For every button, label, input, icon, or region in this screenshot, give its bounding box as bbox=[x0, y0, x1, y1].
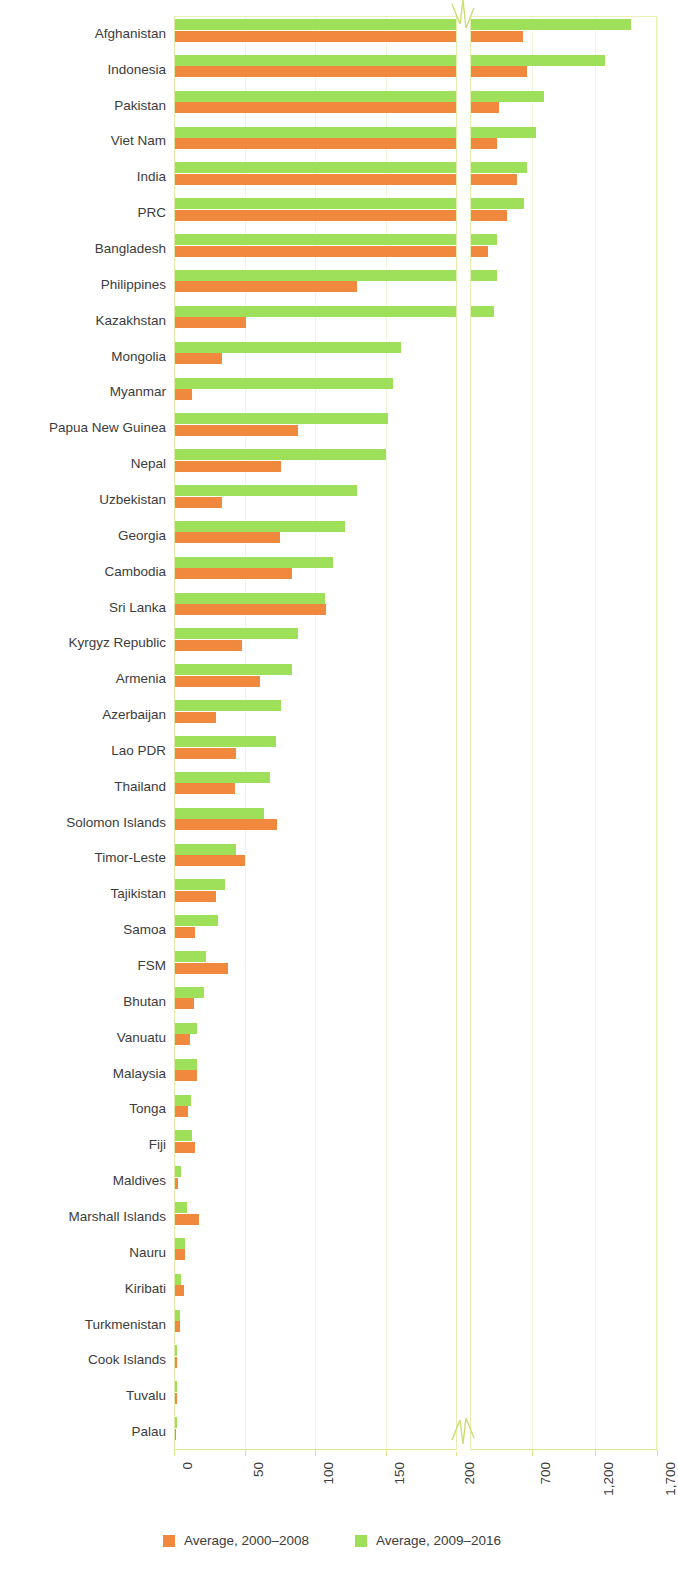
bar-orange bbox=[174, 389, 192, 400]
axis-break-edge-right bbox=[470, 16, 471, 1450]
category-label-papua-new-guinea: Papua New Guinea bbox=[0, 421, 166, 435]
bar-row bbox=[174, 52, 657, 88]
category-label-sri-lanka: Sri Lanka bbox=[0, 601, 166, 615]
category-label-tajikistan: Tajikistan bbox=[0, 887, 166, 901]
category-label-kiribati: Kiribati bbox=[0, 1282, 166, 1296]
axis-break-band bbox=[456, 0, 470, 1452]
bar-orange bbox=[174, 246, 456, 257]
tick-mark bbox=[315, 1450, 316, 1456]
bar-row bbox=[174, 1127, 657, 1163]
bar-row bbox=[174, 446, 657, 482]
bar-row bbox=[174, 1056, 657, 1092]
bar-row bbox=[174, 1020, 657, 1056]
bar-row bbox=[174, 1378, 657, 1414]
bar-green bbox=[174, 198, 456, 209]
bar-orange bbox=[174, 174, 456, 185]
bar-row bbox=[174, 267, 657, 303]
bar-green bbox=[174, 521, 345, 532]
category-label-afghanistan: Afghanistan bbox=[0, 27, 166, 41]
bar-row bbox=[174, 1342, 657, 1378]
category-label-marshall-islands: Marshall Islands bbox=[0, 1210, 166, 1224]
bar-green bbox=[174, 306, 456, 317]
bar-row bbox=[174, 805, 657, 841]
x-tick-label-200: 200 bbox=[462, 1462, 477, 1485]
bar-green bbox=[174, 1059, 197, 1070]
category-label-kyrgyz-republic: Kyrgyz Republic bbox=[0, 636, 166, 650]
bar-green bbox=[174, 844, 236, 855]
category-label-tonga: Tonga bbox=[0, 1102, 166, 1116]
bar-orange bbox=[174, 1070, 197, 1081]
bar-row bbox=[174, 554, 657, 590]
bar-orange bbox=[174, 1142, 195, 1153]
bar-row bbox=[174, 984, 657, 1020]
bar-orange bbox=[174, 748, 236, 759]
bar-row bbox=[174, 375, 657, 411]
bar-green bbox=[174, 593, 325, 604]
category-label-india: India bbox=[0, 170, 166, 184]
axis-break-edge-left bbox=[456, 16, 457, 1450]
tick-mark bbox=[595, 1450, 596, 1456]
bar-orange bbox=[174, 461, 281, 472]
legend-swatch-orange bbox=[163, 1535, 175, 1547]
category-axis-labels: AfghanistanIndonesiaPakistanViet NamIndi… bbox=[0, 16, 166, 1450]
bar-green bbox=[174, 234, 456, 245]
tick-mark bbox=[245, 1450, 246, 1456]
bar-green bbox=[174, 378, 393, 389]
category-label-maldives: Maldives bbox=[0, 1174, 166, 1188]
axis-break-marker-bottom bbox=[450, 1416, 476, 1450]
bar-green-continued bbox=[470, 234, 497, 245]
bar-orange bbox=[174, 353, 222, 364]
category-label-georgia: Georgia bbox=[0, 529, 166, 543]
bar-row bbox=[174, 912, 657, 948]
bar-green bbox=[174, 1166, 181, 1177]
bar-row bbox=[174, 1163, 657, 1199]
category-label-palau: Palau bbox=[0, 1425, 166, 1439]
category-label-fsm: FSM bbox=[0, 959, 166, 973]
bar-green bbox=[174, 808, 264, 819]
bar-rows bbox=[174, 16, 657, 1450]
category-label-viet-nam: Viet Nam bbox=[0, 134, 166, 148]
category-label-myanmar: Myanmar bbox=[0, 385, 166, 399]
bar-green-continued bbox=[470, 127, 536, 138]
x-tick-label-0: 0 bbox=[180, 1462, 195, 1470]
bar-green bbox=[174, 449, 386, 460]
bar-orange bbox=[174, 891, 216, 902]
bar-green bbox=[174, 1130, 192, 1141]
bar-row bbox=[174, 159, 657, 195]
category-label-bhutan: Bhutan bbox=[0, 995, 166, 1009]
bar-green bbox=[174, 485, 357, 496]
bar-orange-continued bbox=[470, 102, 499, 113]
chart-legend: Average, 2000–2008 Average, 2009–2016 bbox=[0, 1533, 664, 1548]
bar-green bbox=[174, 342, 401, 353]
bar-orange bbox=[174, 998, 194, 1009]
tick-mark bbox=[386, 1450, 387, 1456]
category-label-fiji: Fiji bbox=[0, 1138, 166, 1152]
bar-orange-continued bbox=[470, 31, 523, 42]
bar-green bbox=[174, 700, 281, 711]
bar-row bbox=[174, 303, 657, 339]
plot-area bbox=[174, 16, 657, 1450]
bar-orange bbox=[174, 927, 195, 938]
bar-green bbox=[174, 55, 456, 66]
bar-green-continued bbox=[470, 198, 524, 209]
category-label-nepal: Nepal bbox=[0, 457, 166, 471]
bar-row bbox=[174, 124, 657, 160]
bar-orange bbox=[174, 855, 245, 866]
x-tick-label-1200: 1,200 bbox=[601, 1462, 616, 1496]
bar-orange bbox=[174, 66, 456, 77]
bar-green-continued bbox=[470, 55, 605, 66]
bar-orange-continued bbox=[470, 138, 497, 149]
bar-green-continued bbox=[470, 19, 631, 30]
x-tick-label-1700: 1,700 bbox=[663, 1462, 678, 1496]
tick-mark bbox=[174, 1450, 175, 1456]
bar-row bbox=[174, 1092, 657, 1128]
bar-row bbox=[174, 876, 657, 912]
category-label-vanuatu: Vanuatu bbox=[0, 1031, 166, 1045]
bar-orange-continued bbox=[470, 210, 507, 221]
category-label-cambodia: Cambodia bbox=[0, 565, 166, 579]
bar-green bbox=[174, 557, 333, 568]
x-tick-label-50: 50 bbox=[251, 1462, 266, 1477]
category-label-cook-islands: Cook Islands bbox=[0, 1353, 166, 1367]
category-label-solomon-islands: Solomon Islands bbox=[0, 816, 166, 830]
